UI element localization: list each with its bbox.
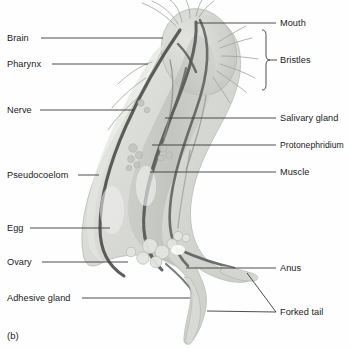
label-egg: Egg — [7, 224, 24, 233]
label-anus: Anus — [280, 264, 301, 273]
leader-forked-tail-lower — [207, 311, 276, 312]
label-ovary: Ovary — [7, 258, 32, 267]
label-mouth: Mouth — [280, 19, 306, 28]
bristles-brace — [262, 30, 277, 90]
label-bristles: Bristles — [280, 56, 311, 65]
label-brain: Brain — [7, 34, 29, 43]
label-pseudocoelom: Pseudocoelom — [7, 171, 68, 180]
label-nerve: Nerve — [7, 106, 32, 115]
anatomy-figure: Brain Pharynx Nerve Pseudocoelom Egg Ova… — [0, 0, 351, 348]
label-muscle: Muscle — [280, 168, 309, 177]
label-adhesive-gland: Adhesive gland — [7, 294, 71, 303]
label-pharynx: Pharynx — [7, 60, 41, 69]
label-protonephridium: Protonephridium — [280, 141, 344, 150]
label-forked-tail: Forked tail — [280, 308, 323, 317]
panel-caption: (b) — [7, 330, 19, 341]
leader-forked-tail-upper — [247, 273, 276, 312]
label-salivary-gland: Salivary gland — [280, 114, 338, 123]
